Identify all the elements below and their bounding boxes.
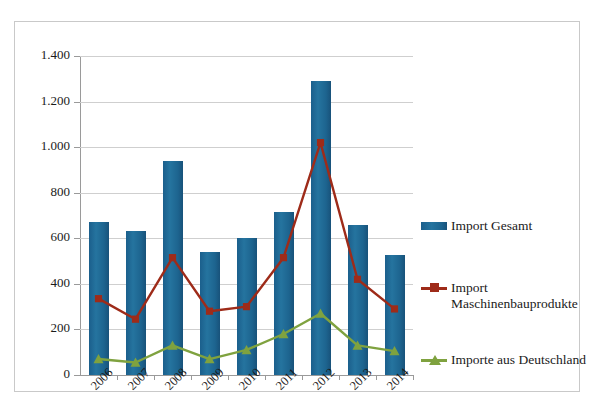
y-axis-tick-label: 600 xyxy=(14,229,70,245)
line-path xyxy=(99,143,395,320)
y-axis-tick xyxy=(74,56,80,57)
y-axis-tick-label: 200 xyxy=(14,320,70,336)
y-axis-tick-label: 1.400 xyxy=(14,47,70,63)
line-square-marker-icon xyxy=(421,281,447,295)
x-axis-tick xyxy=(339,375,340,380)
y-axis-tick xyxy=(74,375,80,376)
triangle-marker-icon xyxy=(279,329,289,338)
square-marker-icon xyxy=(391,305,398,312)
y-axis-tick xyxy=(74,193,80,194)
y-axis-tick-label: 1.000 xyxy=(14,138,70,154)
legend-entry-import-maschinenbauprodukte[interactable]: Import Maschinenbauprodukte xyxy=(421,280,578,312)
square-marker-icon xyxy=(132,316,139,323)
chart-frame: 02004006008001.0001.2001.400 20062007200… xyxy=(14,21,580,392)
legend-label-multiline: Import Maschinenbauprodukte xyxy=(451,280,578,312)
square-marker-icon xyxy=(169,254,176,261)
x-axis-tick xyxy=(265,375,266,380)
line-path xyxy=(99,313,395,362)
y-axis-tick xyxy=(74,102,80,103)
line-series-group xyxy=(80,56,413,375)
square-marker-icon xyxy=(206,308,213,315)
x-axis-tick xyxy=(154,375,155,380)
legend-entry-importe-aus-deutschland[interactable]: Importe aus Deutschland xyxy=(421,352,586,368)
y-axis-tick-label: 0 xyxy=(14,366,70,382)
square-marker-icon xyxy=(243,303,250,310)
y-axis-tick xyxy=(74,284,80,285)
x-axis-tick xyxy=(413,375,414,380)
triangle-marker-icon xyxy=(316,308,326,317)
legend-label-line1: Import xyxy=(451,280,488,295)
y-axis-tick xyxy=(74,329,80,330)
legend-entry-import-gesamt[interactable]: Import Gesamt xyxy=(421,218,532,234)
square-marker-icon xyxy=(354,276,361,283)
plot-area xyxy=(80,56,413,375)
y-axis-tick xyxy=(74,147,80,148)
y-axis-tick-label: 800 xyxy=(14,184,70,200)
triangle-marker-icon xyxy=(168,340,178,349)
x-axis-tick xyxy=(228,375,229,380)
y-axis-tick xyxy=(74,238,80,239)
y-axis-tick-label: 400 xyxy=(14,275,70,291)
x-axis-tick xyxy=(376,375,377,380)
line-triangle-marker-icon xyxy=(421,353,447,367)
square-marker-icon xyxy=(317,139,324,146)
bar-swatch-icon xyxy=(421,219,447,233)
legend-label: Importe aus Deutschland xyxy=(451,352,586,368)
y-axis-tick-label: 1.200 xyxy=(14,93,70,109)
x-axis-tick xyxy=(117,375,118,380)
x-axis-tick xyxy=(191,375,192,380)
legend-label-line2: Maschinenbauprodukte xyxy=(451,296,578,311)
x-axis-tick xyxy=(302,375,303,380)
legend-label: Import Gesamt xyxy=(451,218,532,234)
square-marker-icon xyxy=(95,295,102,302)
square-marker-icon xyxy=(280,254,287,261)
